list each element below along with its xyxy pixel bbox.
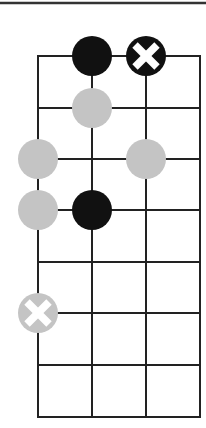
chord-diagram: [0, 0, 206, 428]
gray-dot: [126, 139, 166, 179]
dot-marker-icon: [72, 88, 112, 128]
gray-dot: [18, 190, 58, 230]
x-marker-icon: [18, 293, 58, 333]
fretboard-grid: [38, 56, 200, 417]
black-dot: [72, 190, 112, 230]
dot-marker-icon: [72, 36, 112, 76]
gray-dot: [18, 139, 58, 179]
dot-marker-icon: [18, 190, 58, 230]
x-marker-icon: [126, 36, 166, 76]
dot-marker-icon: [18, 139, 58, 179]
gray-dot: [72, 88, 112, 128]
black-dot: [72, 36, 112, 76]
dot-marker-icon: [126, 139, 166, 179]
dot-marker-icon: [72, 190, 112, 230]
